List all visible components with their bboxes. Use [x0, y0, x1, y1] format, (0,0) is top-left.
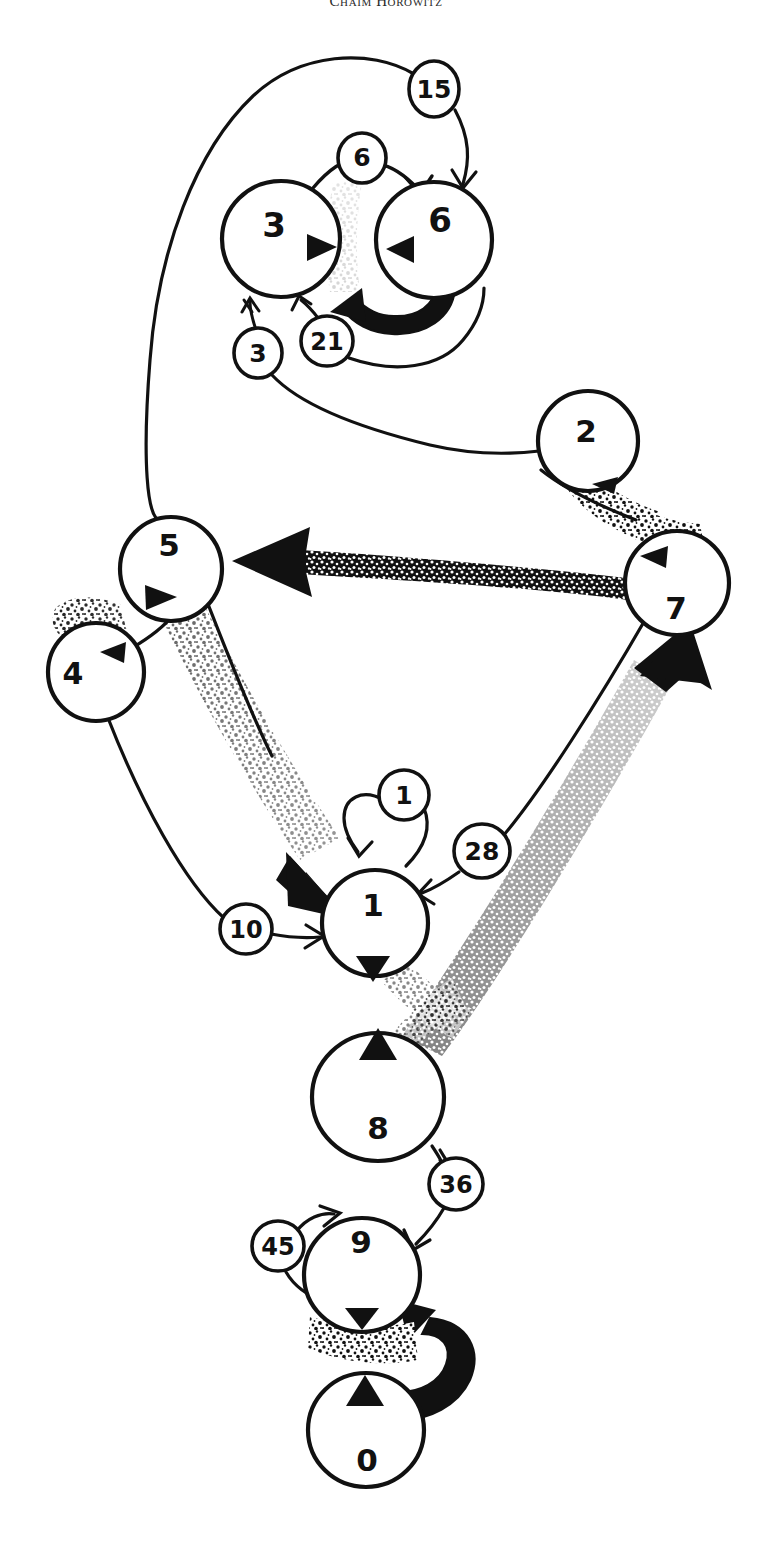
node-1[interactable]: 1 — [322, 870, 428, 982]
edge-label-36-text: 36 — [439, 1171, 472, 1199]
node-4[interactable]: 4 — [48, 623, 144, 721]
node-7-label: 7 — [665, 590, 687, 626]
node-4-label: 4 — [63, 656, 84, 691]
edge-label-21-text: 21 — [310, 328, 343, 356]
edge-label-10-text: 10 — [229, 916, 262, 944]
node-5[interactable]: 5 — [120, 517, 222, 621]
node-5-label: 5 — [158, 527, 180, 563]
edge-label-21[interactable]: 21 — [301, 316, 353, 366]
edge-5-to-1-thick-stipple-arrow — [160, 604, 350, 920]
node-0[interactable]: 0 — [308, 1373, 424, 1487]
edge-label-10[interactable]: 10 — [220, 904, 272, 954]
node-7[interactable]: 7 — [625, 531, 729, 635]
node-9[interactable]: 9 — [304, 1218, 420, 1332]
edge-label-15[interactable]: 15 — [409, 61, 459, 117]
edge-label-6-text: 6 — [353, 143, 370, 172]
edge-label-6[interactable]: 6 — [338, 133, 386, 183]
edge-label-3-text: 3 — [249, 339, 266, 368]
edge-7-to-5-thick-stipple-arrow — [232, 527, 628, 600]
graph-diagram: 3 6 2 5 7 4 1 8 — [0, 0, 772, 1549]
node-3[interactable]: 3 — [222, 181, 340, 297]
edge-15-down-to-node6 — [452, 110, 476, 188]
edge-label-45-text: 45 — [261, 1233, 294, 1261]
edge-label-1-text: 1 — [395, 781, 412, 810]
edge-label-28[interactable]: 28 — [454, 824, 510, 878]
edge-label-45[interactable]: 45 — [252, 1221, 304, 1271]
node-8-label: 8 — [367, 1110, 389, 1146]
edge-label-3[interactable]: 3 — [234, 328, 282, 378]
arrow-21-into-node3 — [292, 296, 318, 318]
node-3-label: 3 — [262, 205, 286, 245]
node-6-label: 6 — [428, 200, 452, 240]
edge-label-36[interactable]: 36 — [429, 1158, 483, 1210]
edge-3label-long-arc — [272, 375, 560, 453]
node-0-label: 0 — [356, 1442, 378, 1478]
node-9-label: 9 — [350, 1224, 372, 1260]
edge-label-28-text: 28 — [465, 837, 500, 866]
node-2-label: 2 — [575, 413, 597, 449]
node-6[interactable]: 6 — [376, 182, 492, 298]
edge-label-15-text: 15 — [417, 75, 452, 104]
edge-label-1[interactable]: 1 — [379, 770, 429, 820]
node-2[interactable]: 2 — [538, 391, 638, 494]
node-1-label: 1 — [362, 887, 384, 923]
node-8[interactable]: 8 — [312, 1028, 444, 1161]
